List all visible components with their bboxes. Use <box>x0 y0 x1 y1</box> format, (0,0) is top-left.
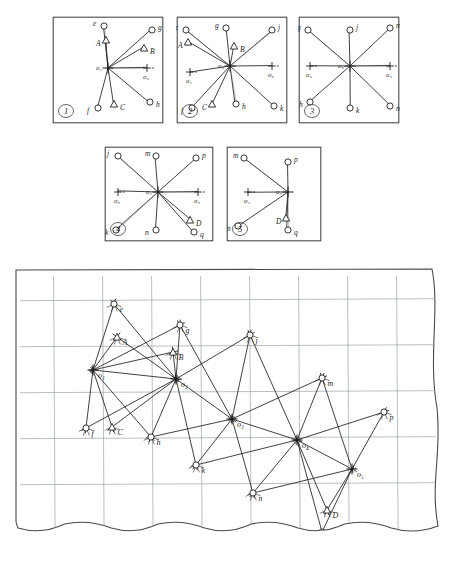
panel-4-label-p: p <box>201 151 206 160</box>
station-label-o4: o₄ <box>302 441 309 450</box>
target-j-circle-icon <box>247 332 253 338</box>
panel-3-label-o2: o₂ <box>306 71 313 79</box>
panel-4: jmpDqnko₄o₃o₅4 <box>104 146 214 242</box>
panel-2-centre-label: o₂ <box>218 62 225 70</box>
panel-2-e-circle-icon <box>183 27 189 33</box>
target-label-h: h <box>157 438 161 447</box>
target-label-g: g <box>186 326 190 335</box>
panel-5-m-circle-icon <box>241 155 247 161</box>
main-sheet-svg: eAgBfChjkmnpDqo₁o₂o₃o₄o₅ <box>14 268 444 556</box>
target-h-circle-icon <box>148 434 154 440</box>
panel-5: mpDqno₅o₄5 <box>226 146 322 242</box>
panel-1-label-A: A <box>95 39 101 48</box>
panel-5-q-circle-icon <box>285 227 291 233</box>
panel-4-n-circle-icon <box>153 227 159 233</box>
panel-2-label-j: j <box>277 23 280 32</box>
target-k-circle-icon <box>193 462 199 468</box>
panel-3-label-g: g <box>298 23 301 32</box>
target-label-k: k <box>202 466 206 475</box>
panel-3-m-circle-icon <box>387 25 393 31</box>
panel-5-label-n: n <box>227 224 231 233</box>
panel-4-q-circle-icon <box>191 229 197 235</box>
sheet-outline <box>16 269 438 531</box>
target-label-A: A <box>122 338 128 347</box>
panel-4-label-j: j <box>106 149 109 158</box>
target-m-circle-icon <box>319 375 325 381</box>
station-label-o2: o₂ <box>181 380 188 389</box>
target-label-C: C <box>118 428 124 437</box>
target-label-m: m <box>328 379 334 388</box>
target-label-n: n <box>259 494 263 503</box>
panel-1-label-o2: o₂ <box>143 73 150 81</box>
panel-5-p-circle-icon <box>285 159 291 165</box>
panel-2-label-g: g <box>215 21 219 30</box>
panel-2-k-circle-icon <box>271 103 277 109</box>
panel-3-g-circle-icon <box>305 27 311 33</box>
station-label-o5: o₅ <box>357 470 364 479</box>
panel-2-j-circle-icon <box>269 27 275 33</box>
panel-2-h-circle-icon <box>233 101 239 107</box>
panel-3-number: 3 <box>309 106 314 116</box>
target-n-circle-icon <box>250 490 256 496</box>
target-hair <box>315 533 320 535</box>
target-label-B: B <box>179 353 184 362</box>
panel-5-centre-label: o₅ <box>276 188 283 196</box>
panel-2-label-o3: o₃ <box>268 71 275 79</box>
panel-4-label-m: m <box>145 149 151 158</box>
target-hair <box>323 535 325 540</box>
panel-4-m-circle-icon <box>153 153 159 159</box>
panel-2-label-h: h <box>242 102 246 111</box>
panel-3-n-circle-icon <box>387 103 393 109</box>
panel-5-label-m: m <box>233 151 239 160</box>
panel-1-label-B: B <box>150 47 155 56</box>
target-label-e: e <box>120 305 124 314</box>
target-hair <box>325 533 330 535</box>
panel-1-e-circle-icon <box>101 23 107 29</box>
panel-2-label-A: A <box>177 41 183 50</box>
target-p-circle-icon <box>381 409 387 415</box>
panel-4-label-q: q <box>200 230 204 239</box>
panel-2: eAgBjkhCfo₂o₁o₃2 <box>176 16 288 124</box>
target-label-q: q <box>328 533 332 542</box>
panel-4-label-o3: o₃ <box>114 197 121 205</box>
panel-3-label-j: j <box>355 23 358 32</box>
panel-5-label-p: p <box>293 155 298 164</box>
panel-4-centre-label: o₄ <box>146 188 153 196</box>
station-label-o1: o₁ <box>98 371 105 380</box>
target-hair <box>319 535 321 540</box>
panel-1: eAgBhCfo₁o₂1 <box>52 16 164 124</box>
station-label-o3: o₃ <box>237 420 244 429</box>
panel-5-label-D: D <box>275 217 282 226</box>
panel-3-label-h: h <box>299 100 303 109</box>
panel-1-f-circle-icon <box>95 105 101 111</box>
panel-2-label-B: B <box>240 45 245 54</box>
target-f-circle-icon <box>83 425 89 431</box>
panel-4-label-D: D <box>195 219 202 228</box>
panel-4-p-circle-icon <box>193 155 199 161</box>
panel-1-h-circle-icon <box>147 99 153 105</box>
panel-1-label-g: g <box>158 23 162 32</box>
panel-5-label-q: q <box>294 228 298 237</box>
panel-3: gjmnkho₃o₂o₄3 <box>298 16 400 124</box>
panel-1-label-h: h <box>156 100 160 109</box>
panel-2-label-o1: o₁ <box>186 77 192 85</box>
target-e-circle-icon <box>111 301 117 307</box>
target-label-D: D <box>332 511 339 520</box>
panel-1-g-circle-icon <box>149 27 155 33</box>
panel-1-centre-label: o₁ <box>96 64 102 72</box>
panel-5-label-o4: o₄ <box>244 197 251 205</box>
panel-3-label-o4: o₄ <box>386 71 393 79</box>
panel-1-number: 1 <box>64 106 68 116</box>
panel-3-centre-label: o₃ <box>338 62 345 70</box>
panel-3-label-n: n <box>396 104 400 113</box>
panel-4-label-n: n <box>145 228 149 237</box>
target-label-p: p <box>389 413 394 422</box>
diagram-page: eAgBhCfo₁o₂1eAgBjkhCfo₂o₁o₃2gjmnkho₃o₂o₄… <box>0 0 458 566</box>
panel-2-g-circle-icon <box>223 25 229 31</box>
panel-3-j-circle-icon <box>347 27 353 33</box>
target-g-circle-icon <box>177 322 183 328</box>
panel-5-number: 5 <box>238 224 242 234</box>
target-q-circle-icon <box>319 529 325 535</box>
panel-4-j-circle-icon <box>115 153 121 159</box>
panel-4-label-o5: o₅ <box>194 197 201 205</box>
